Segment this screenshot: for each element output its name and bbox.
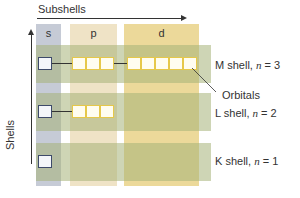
m-d-orbital-4 (169, 57, 183, 70)
shells-axis-line (31, 34, 32, 164)
l-s-orbital (38, 105, 52, 118)
m-p-orbital-2 (86, 57, 100, 70)
k-s-orbital (38, 155, 52, 168)
subshells-arrow-icon (181, 15, 187, 21)
m-p-orbital-3 (100, 57, 114, 70)
m-p-d-connector (114, 63, 128, 64)
m-d-orbital-2 (141, 57, 155, 70)
k-shell-band (36, 143, 211, 181)
k-shell-name: K shell, (215, 155, 254, 167)
l-p-orbital-2 (86, 105, 100, 118)
m-shell-value: = 3 (261, 59, 280, 71)
l-p-orbital-1 (72, 105, 86, 118)
l-s-p-connector (52, 111, 72, 112)
orbitals-annotation: Orbitals (222, 89, 260, 101)
l-p-orbital-3 (100, 105, 114, 118)
k-shell-label: K shell, n = 1 (215, 155, 278, 167)
s-column-header: s (36, 24, 61, 42)
k-shell-value: = 1 (260, 155, 279, 167)
m-shell-name: M shell, (215, 59, 256, 71)
l-shell-value: = 2 (258, 107, 277, 119)
m-p-orbital-1 (72, 57, 86, 70)
m-d-orbital-3 (155, 57, 169, 70)
p-column-header: p (70, 24, 117, 42)
m-shell-label: M shell, n = 3 (215, 59, 280, 71)
subshells-axis-line (37, 18, 183, 19)
l-shell-name: L shell, (215, 107, 253, 119)
shells-axis-label: Shells (4, 120, 16, 150)
m-d-orbital-1 (127, 57, 141, 70)
subshells-axis-label: Subshells (38, 3, 86, 15)
d-column-header: d (124, 24, 199, 42)
m-s-orbital (38, 57, 52, 70)
l-shell-label: L shell, n = 2 (215, 107, 277, 119)
m-s-p-connector (52, 63, 72, 64)
shells-arrow-icon (28, 29, 34, 35)
